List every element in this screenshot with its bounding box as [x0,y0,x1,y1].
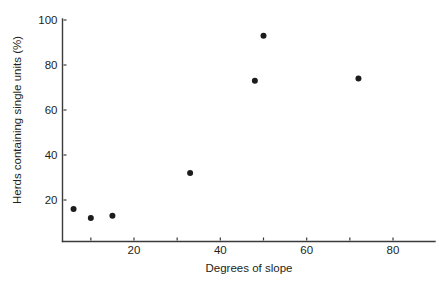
scatter-point [261,33,267,39]
y-tick-label: 100 [38,14,57,26]
y-axis-title: Herds containing single units (%) [11,36,23,204]
axes-group [63,19,436,242]
scatter-point [355,76,361,82]
scatter-point [109,213,115,219]
data-point-series [71,33,362,221]
x-tick-label: 40 [214,244,227,256]
scatter-point [252,78,258,84]
scatter-point [88,215,94,221]
scatter-point [187,170,193,176]
x-tick-label: 80 [387,244,400,256]
chart-canvas: 20406080 20406080100 Degrees of slope He… [0,0,445,283]
scatter-point [71,206,77,212]
x-axis-ticks: 20406080 [91,238,400,256]
y-tick-label: 60 [45,104,58,116]
y-tick-label: 40 [45,149,58,161]
x-tick-label: 60 [300,244,313,256]
x-tick-label: 20 [128,244,141,256]
y-tick-label: 80 [45,59,58,71]
scatter-plot-figure: 20406080 20406080100 Degrees of slope He… [0,0,445,283]
x-axis-title: Degrees of slope [206,262,293,274]
y-tick-label: 20 [45,194,58,206]
